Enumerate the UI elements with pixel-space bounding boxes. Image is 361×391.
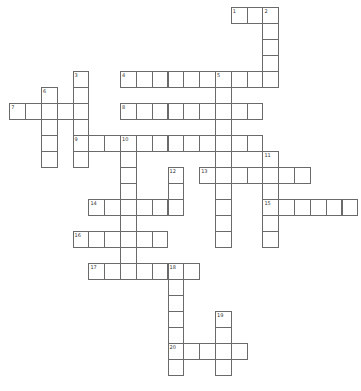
- crossword-cell[interactable]: [262, 183, 279, 200]
- crossword-cell[interactable]: 2: [262, 7, 279, 24]
- crossword-cell[interactable]: [152, 135, 169, 152]
- crossword-cell[interactable]: [183, 71, 200, 88]
- crossword-cell[interactable]: 17: [88, 263, 105, 280]
- crossword-cell[interactable]: [247, 7, 264, 24]
- crossword-cell[interactable]: 16: [73, 231, 90, 248]
- crossword-cell[interactable]: [168, 135, 185, 152]
- crossword-cell[interactable]: [152, 263, 169, 280]
- crossword-cell[interactable]: [215, 343, 232, 360]
- crossword-cell[interactable]: [199, 343, 216, 360]
- crossword-cell[interactable]: [120, 231, 137, 248]
- crossword-cell[interactable]: [120, 183, 137, 200]
- crossword-cell[interactable]: [168, 295, 185, 312]
- crossword-cell[interactable]: [215, 87, 232, 104]
- crossword-cell[interactable]: [215, 183, 232, 200]
- crossword-cell[interactable]: [168, 183, 185, 200]
- crossword-cell[interactable]: [278, 167, 295, 184]
- crossword-cell[interactable]: [41, 135, 58, 152]
- crossword-cell[interactable]: [168, 199, 185, 216]
- crossword-cell[interactable]: 15: [262, 199, 279, 216]
- crossword-cell[interactable]: [88, 135, 105, 152]
- crossword-cell[interactable]: [183, 343, 200, 360]
- crossword-cell[interactable]: [73, 103, 90, 120]
- crossword-cell[interactable]: [215, 359, 232, 376]
- crossword-cell[interactable]: [88, 231, 105, 248]
- crossword-cell[interactable]: [231, 167, 248, 184]
- crossword-cell[interactable]: [294, 167, 311, 184]
- crossword-cell[interactable]: [262, 55, 279, 72]
- crossword-cell[interactable]: [136, 71, 153, 88]
- crossword-cell[interactable]: [120, 199, 137, 216]
- crossword-cell[interactable]: [262, 231, 279, 248]
- crossword-cell[interactable]: [41, 151, 58, 168]
- crossword-cell[interactable]: [215, 215, 232, 232]
- crossword-cell[interactable]: [152, 71, 169, 88]
- crossword-cell[interactable]: 13: [199, 167, 216, 184]
- crossword-cell[interactable]: [136, 135, 153, 152]
- crossword-cell[interactable]: [25, 103, 42, 120]
- crossword-cell[interactable]: [342, 199, 359, 216]
- crossword-cell[interactable]: 11: [262, 151, 279, 168]
- crossword-cell[interactable]: [168, 103, 185, 120]
- crossword-cell[interactable]: [231, 135, 248, 152]
- crossword-cell[interactable]: [41, 103, 58, 120]
- crossword-cell[interactable]: 12: [168, 167, 185, 184]
- crossword-cell[interactable]: [152, 199, 169, 216]
- crossword-cell[interactable]: [73, 119, 90, 136]
- crossword-cell[interactable]: 5: [215, 71, 232, 88]
- crossword-cell[interactable]: [73, 151, 90, 168]
- crossword-cell[interactable]: [262, 71, 279, 88]
- crossword-cell[interactable]: [247, 135, 264, 152]
- crossword-cell[interactable]: [57, 103, 74, 120]
- crossword-cell[interactable]: [168, 327, 185, 344]
- crossword-cell[interactable]: [215, 199, 232, 216]
- crossword-cell[interactable]: [294, 199, 311, 216]
- crossword-cell[interactable]: [168, 359, 185, 376]
- crossword-cell[interactable]: [120, 247, 137, 264]
- crossword-cell[interactable]: [152, 231, 169, 248]
- crossword-cell[interactable]: [215, 135, 232, 152]
- crossword-cell[interactable]: [136, 103, 153, 120]
- crossword-cell[interactable]: 6: [41, 87, 58, 104]
- crossword-cell[interactable]: [168, 279, 185, 296]
- crossword-cell[interactable]: 7: [9, 103, 26, 120]
- crossword-cell[interactable]: [120, 167, 137, 184]
- crossword-cell[interactable]: [104, 135, 121, 152]
- crossword-cell[interactable]: 19: [215, 311, 232, 328]
- crossword-cell[interactable]: 3: [73, 71, 90, 88]
- crossword-cell[interactable]: [183, 263, 200, 280]
- crossword-cell[interactable]: [310, 199, 327, 216]
- crossword-cell[interactable]: 1: [231, 7, 248, 24]
- crossword-cell[interactable]: [136, 263, 153, 280]
- crossword-cell[interactable]: [136, 199, 153, 216]
- crossword-cell[interactable]: [215, 231, 232, 248]
- crossword-cell[interactable]: [120, 263, 137, 280]
- crossword-cell[interactable]: [262, 167, 279, 184]
- crossword-cell[interactable]: [247, 103, 264, 120]
- crossword-cell[interactable]: [104, 263, 121, 280]
- crossword-cell[interactable]: [215, 103, 232, 120]
- crossword-cell[interactable]: [120, 151, 137, 168]
- crossword-cell[interactable]: 4: [120, 71, 137, 88]
- crossword-cell[interactable]: 8: [120, 103, 137, 120]
- crossword-cell[interactable]: [326, 199, 343, 216]
- crossword-cell[interactable]: [262, 23, 279, 40]
- crossword-cell[interactable]: [231, 343, 248, 360]
- crossword-cell[interactable]: [104, 199, 121, 216]
- crossword-cell[interactable]: [136, 231, 153, 248]
- crossword-cell[interactable]: 10: [120, 135, 137, 152]
- crossword-cell[interactable]: [247, 71, 264, 88]
- crossword-cell[interactable]: [120, 215, 137, 232]
- crossword-cell[interactable]: 20: [168, 343, 185, 360]
- crossword-cell[interactable]: [73, 87, 90, 104]
- crossword-cell[interactable]: [41, 119, 58, 136]
- crossword-cell[interactable]: 18: [168, 263, 185, 280]
- crossword-cell[interactable]: [215, 151, 232, 168]
- crossword-cell[interactable]: [168, 71, 185, 88]
- crossword-cell[interactable]: [183, 103, 200, 120]
- crossword-cell[interactable]: [152, 103, 169, 120]
- crossword-cell[interactable]: [104, 231, 121, 248]
- crossword-cell[interactable]: 9: [73, 135, 90, 152]
- crossword-cell[interactable]: [199, 71, 216, 88]
- crossword-cell[interactable]: [215, 167, 232, 184]
